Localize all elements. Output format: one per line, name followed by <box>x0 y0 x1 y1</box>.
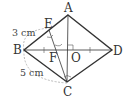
rhombus-diagram: A B C D O E F 3 cm 5 cm <box>0 0 130 108</box>
angle-mark-e <box>47 35 53 38</box>
label-bc-length: 5 cm <box>20 67 43 78</box>
label-e: E <box>44 17 53 31</box>
right-angle-mark <box>68 45 73 50</box>
diagonal-ac <box>67 15 68 82</box>
label-be-length: 3 cm <box>12 27 35 38</box>
label-f: F <box>49 51 57 65</box>
angle-mark-f <box>55 44 62 46</box>
label-d: D <box>113 44 123 58</box>
label-a: A <box>63 1 73 15</box>
label-o: O <box>71 51 81 65</box>
label-b: B <box>13 43 22 57</box>
label-c: C <box>63 85 72 99</box>
